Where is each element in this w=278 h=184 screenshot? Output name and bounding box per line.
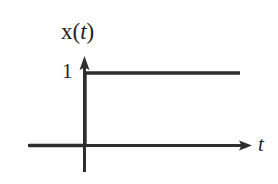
signal-name-label: x(t) bbox=[61, 20, 94, 43]
time-axis-label: t bbox=[258, 134, 264, 155]
plot-canvas bbox=[0, 0, 278, 184]
signal-name-text: x bbox=[61, 19, 73, 44]
unit-step-figure: x(t) 1 t bbox=[0, 0, 278, 184]
amplitude-tick-label: 1 bbox=[62, 61, 73, 82]
signal-close-paren: ) bbox=[87, 19, 95, 44]
